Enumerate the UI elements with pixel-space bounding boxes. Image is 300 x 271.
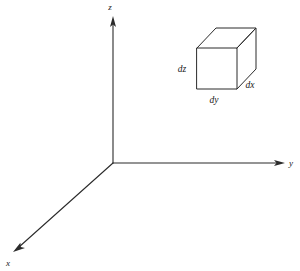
z-axis-label: z (107, 2, 112, 12)
dz-label: dz (178, 64, 187, 74)
cube-dimension-labels: dz dy dx (178, 64, 255, 105)
figure-canvas: z y x dz dy dx (0, 0, 300, 271)
coordinate-axes-figure: z y x dz dy dx (0, 0, 300, 271)
y-axis-label: y (288, 158, 293, 168)
dx-label: dx (246, 80, 256, 90)
axis-group-x: x (5, 163, 113, 268)
x-axis-arrowhead (13, 243, 25, 252)
cube-front-face (197, 48, 237, 89)
x-axis-line (19, 163, 113, 247)
dy-label: dy (210, 95, 220, 105)
x-axis-label: x (5, 258, 10, 268)
axis-group-z: z (107, 2, 116, 163)
axis-group-y: y (113, 158, 293, 168)
